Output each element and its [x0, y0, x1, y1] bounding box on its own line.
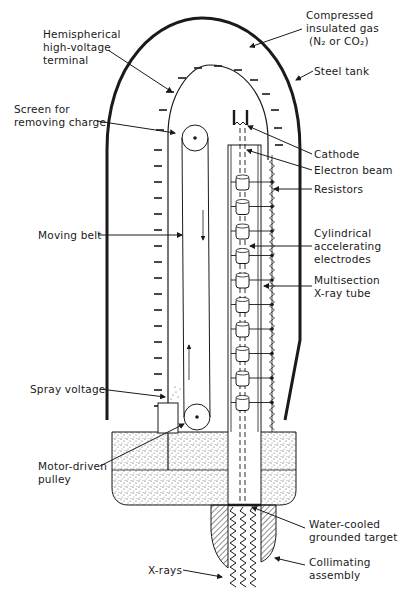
x-ray-wave [230, 507, 236, 587]
label-screen: Screen for removing charge [14, 103, 106, 128]
junction-dot [270, 352, 274, 356]
label-electron-beam: Electron beam [314, 164, 393, 176]
junction-dot [270, 254, 274, 258]
label-gas: Compressed insulated gas (N₂ or CO₂) [306, 9, 382, 47]
label-cathode: Cathode [314, 148, 360, 160]
charge-marks [154, 66, 283, 406]
label-resistors: Resistors [314, 183, 363, 195]
label-steel-tank: Steel tank [314, 65, 370, 77]
junction-dot [270, 376, 274, 380]
x-rays [230, 507, 256, 587]
insulating-base [112, 432, 296, 505]
junction-dot [270, 205, 274, 209]
label-xrays: X-rays [148, 564, 182, 576]
moving-belt [182, 138, 184, 417]
label-collimator: Collimating assembly [309, 556, 374, 581]
x-ray-wave [250, 507, 256, 587]
electrode-top [236, 322, 249, 326]
junction-dot [270, 401, 274, 405]
electrode-top [236, 298, 249, 302]
leader-xrays [183, 570, 222, 577]
electrode-top [236, 347, 249, 351]
collimating-assembly-left [211, 505, 228, 568]
junction-dot [270, 229, 274, 233]
electrode-top [236, 371, 249, 375]
label-terminal: Hemispherical high-voltage terminal [43, 28, 124, 66]
junction-dot [270, 278, 274, 282]
x-ray-wave [240, 507, 246, 587]
label-target: Water-cooled grounded target [309, 518, 398, 543]
label-electrodes: Cylindrical accelerating electrodes [314, 227, 385, 265]
label-spray-voltage: Spray voltage [30, 383, 105, 395]
electrode-top [236, 249, 249, 253]
junction-dot [270, 303, 274, 307]
electrode-top [236, 396, 249, 400]
electrode-top [236, 200, 249, 204]
electrode-top [236, 224, 249, 228]
label-moving-belt: Moving belt [38, 229, 102, 241]
label-pulley: Motor-driven pulley [38, 460, 111, 485]
junction-dot [270, 327, 274, 331]
junction-dot [270, 180, 274, 184]
electrode-top [236, 175, 249, 179]
leader-collimator [275, 558, 305, 565]
leader-steel-tank [296, 71, 313, 80]
label-xray-tube: Multisection X-ray tube [314, 274, 383, 299]
leader-target [252, 507, 305, 528]
accelerator-diagram: Hemispherical high-voltage terminal Comp… [0, 0, 405, 594]
electrode-top [236, 273, 249, 277]
